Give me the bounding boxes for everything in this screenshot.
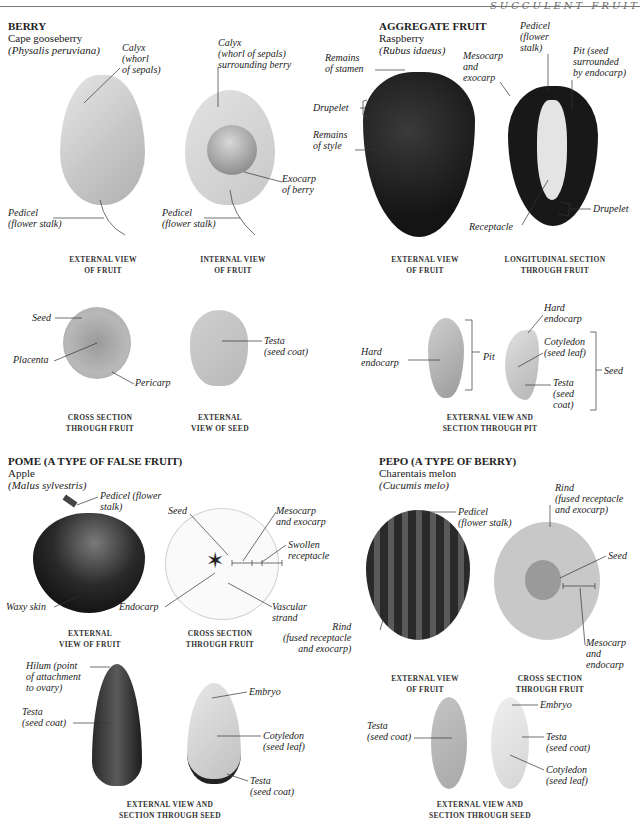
caption-apple-seed: EXTERNAL VIEW AND SECTION THROUGH SEED <box>110 799 230 821</box>
label-testa-apple-left: Testa (seed coat) <box>22 706 66 728</box>
gooseberry-berry-image <box>207 125 257 175</box>
label-calyx-external: Calyx (whorl of sepals) <box>122 42 161 75</box>
label-hard-endocarp-right: Hard endocarp <box>544 302 582 324</box>
pome-common-name: Apple <box>8 467 35 479</box>
label-testa-melon-right: Testa (seed coat) <box>546 731 590 753</box>
label-pedicel-internal: Pedicel (flower stalk) <box>162 207 216 229</box>
label-testa-apple-right: Testa (seed coat) <box>250 775 294 797</box>
label-mesocarp-apple: Mesocarp and exocarp <box>276 505 326 527</box>
label-calyx-internal: Calyx (whorl of sepals) surrounding berr… <box>218 37 291 70</box>
raspberry-receptacle-image <box>537 100 567 200</box>
caption-raspberry-external: EXTERNAL VIEW OF FRUIT <box>375 254 475 276</box>
label-hilum: Hilum (point of attachment to ovary) <box>26 660 81 693</box>
pit-section-image <box>505 330 539 400</box>
label-seed: Seed <box>32 312 51 323</box>
raspberry-external-image <box>363 72 475 237</box>
caption-apple-cross: CROSS SECTION THROUGH FRUIT <box>170 628 270 650</box>
pome-title: POME (A TYPE OF FALSE FRUIT) <box>8 455 182 467</box>
label-testa-pit: Testa (seed coat) <box>553 377 574 410</box>
label-mesocarp-exocarp: Mesocarp and exocarp <box>463 50 503 83</box>
label-mesocarp-melon: Mesocarp and endocarp <box>586 637 626 670</box>
label-exocarp: Exocarp of berry <box>282 173 316 195</box>
label-swollen-receptacle: Swollen receptacle <box>288 539 329 561</box>
caption-melon-cross: CROSS SECTION THROUGH FRUIT <box>500 673 600 695</box>
header-rule <box>0 6 640 7</box>
caption-raspberry-longitudinal: LONGITUDINAL SECTION THROUGH FRUIT <box>495 254 615 276</box>
caption-pit: EXTERNAL VIEW AND SECTION THROUGH PIT <box>430 412 550 434</box>
caption-berry-cross: CROSS SECTION THROUGH FRUIT <box>55 412 145 434</box>
berry-latin-name: (Physalis peruviana) <box>8 44 100 56</box>
label-embryo-melon: Embryo <box>540 699 572 710</box>
pepo-title: PEPO (A TYPE OF BERRY) <box>379 455 516 467</box>
label-cotyledon-melon: Cotyledon (seed leaf) <box>546 764 588 786</box>
caption-melon-external: EXTERNAL VIEW OF FRUIT <box>375 673 475 695</box>
apple-seed-section-image <box>187 683 241 784</box>
apple-core-star: ✶ <box>206 550 224 572</box>
label-seed-bracket: Seed <box>604 365 623 376</box>
label-seed-apple: Seed <box>168 505 187 516</box>
caption-berry-internal: INTERNAL VIEW OF FRUIT <box>188 254 278 276</box>
label-testa-melon-left: Testa (seed coat) <box>367 720 411 742</box>
pit-external-image <box>428 318 464 398</box>
melon-seed-external-image <box>431 697 467 789</box>
aggregate-latin-name: (Rubus idaeus) <box>379 44 445 56</box>
label-pedicel-apple: Pedicel (flower stalk) <box>100 490 161 512</box>
label-pit-bracket: Pit <box>483 351 495 362</box>
label-waxy-skin: Waxy skin <box>6 601 46 612</box>
label-rind-left: Rind (fused receptacle and exocarp) <box>283 621 351 654</box>
pome-latin-name: (Malus sylvestris) <box>8 479 87 491</box>
gooseberry-seed-image <box>190 310 248 386</box>
label-pedicel-melon: Pedicel (flower stalk) <box>458 506 512 528</box>
label-drupelet-right: Drupelet <box>593 203 629 214</box>
gooseberry-external-image <box>60 75 145 205</box>
label-remains-style: Remains of style <box>313 129 347 151</box>
caption-apple-external: EXTERNAL VIEW OF FRUIT <box>45 628 135 650</box>
aggregate-common-name: Raspberry <box>379 32 424 44</box>
aggregate-title: AGGREGATE FRUIT <box>379 20 487 32</box>
label-pedicel-external: Pedicel (flower stalk) <box>8 207 62 229</box>
berry-title: BERRY <box>8 20 46 32</box>
label-testa: Testa (seed coat) <box>264 335 308 357</box>
label-remains-stamen: Remains of stamen <box>325 52 364 74</box>
label-cotyledon-apple: Cotyledon (seed leaf) <box>263 730 305 752</box>
apple-external-image <box>33 513 145 613</box>
melon-seed-cavity <box>525 560 561 600</box>
label-vascular-strand: Vascular strand <box>272 601 307 623</box>
caption-berry-seed: EXTERNAL VIEW OF SEED <box>180 412 260 434</box>
apple-seed-external-image <box>92 664 142 786</box>
pepo-common-name: Charentais melon <box>379 467 456 479</box>
pepo-latin-name: (Cucumis melo) <box>379 479 449 491</box>
caption-berry-external: EXTERNAL VIEW OF FRUIT <box>58 254 148 276</box>
label-endocarp: Endocarp <box>119 601 158 612</box>
label-hard-endocarp-left: Hard endocarp <box>361 346 399 368</box>
label-rind-top: Rind (fused receptacle and exocarp) <box>555 482 623 515</box>
label-receptacle: Receptacle <box>469 221 513 232</box>
caption-melon-seed: EXTERNAL VIEW AND SECTION THROUGH SEED <box>420 799 540 821</box>
label-embryo-apple: Embryo <box>249 686 281 697</box>
label-cotyledon-pit: Cotyledon (seed leaf) <box>544 336 586 358</box>
label-pericarp: Pericarp <box>135 377 171 388</box>
label-drupelet-left: Drupelet <box>313 102 349 113</box>
apple-stalk-image <box>63 495 78 508</box>
label-placenta: Placenta <box>13 354 49 365</box>
melon-seed-section-image <box>491 697 529 789</box>
berry-common-name: Cape gooseberry <box>8 32 82 44</box>
label-pedicel-raspberry: Pedicel (flower stalk) <box>520 20 550 53</box>
melon-external-image <box>366 510 470 640</box>
label-pit: Pit (seed surrounded by endocarp) <box>573 45 626 78</box>
gooseberry-cross-section-image <box>63 307 131 379</box>
label-seed-melon: Seed <box>608 550 627 561</box>
